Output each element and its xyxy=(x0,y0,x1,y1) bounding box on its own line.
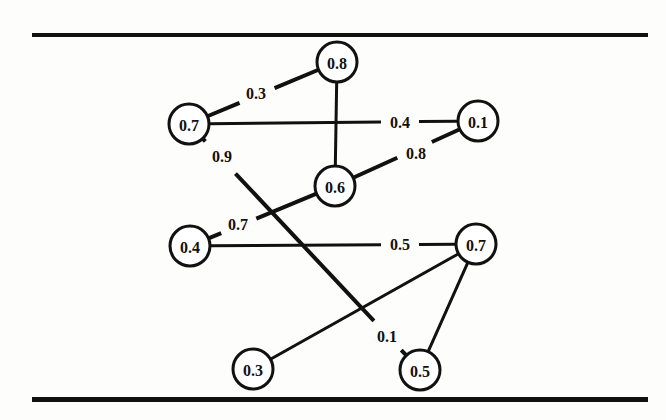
graph-node[interactable]: 0.6 xyxy=(315,166,355,206)
edge-weight-label: 0.7 xyxy=(228,216,248,233)
figure-root: 0.30.40.80.90.10.70.5 0.80.70.10.60.40.7… xyxy=(0,0,666,420)
node-value-label: 0.4 xyxy=(180,239,200,256)
e_04_07b-segment-0 xyxy=(210,245,381,246)
graph-canvas: 0.30.40.80.90.10.70.5 0.80.70.10.60.40.7… xyxy=(0,0,666,420)
node-value-label: 0.7 xyxy=(179,117,199,134)
edge-weight-label: 0.3 xyxy=(246,85,266,102)
graph-node[interactable]: 0.1 xyxy=(458,101,498,141)
bottom-horizontal-rule xyxy=(32,397,648,402)
e_06_01-segment-last xyxy=(432,129,460,142)
node-value-label: 0.5 xyxy=(410,363,430,380)
e_07a_08-segment-0 xyxy=(207,103,239,116)
edge-weight-label: 0.8 xyxy=(406,145,426,162)
node-value-label: 0.7 xyxy=(466,237,486,254)
edge-weight-label: 0.1 xyxy=(377,328,397,345)
e_06_04-segment-last xyxy=(208,233,221,238)
e_06_01-segment-0 xyxy=(353,158,397,178)
node-value-label: 0.6 xyxy=(325,179,345,196)
graph-node[interactable]: 0.5 xyxy=(400,350,440,390)
node-value-label: 0.1 xyxy=(468,114,488,131)
graph-node[interactable]: 0.8 xyxy=(317,42,357,82)
edge-weight-label: 0.5 xyxy=(390,236,410,253)
edge-weight-label: 0.4 xyxy=(390,114,410,131)
e_05_07b-segment-last xyxy=(428,262,468,351)
graph-node[interactable]: 0.3 xyxy=(233,349,273,389)
edge-weight-label: 0.9 xyxy=(212,148,232,165)
node-value-label: 0.3 xyxy=(243,362,263,379)
graph-node[interactable]: 0.4 xyxy=(170,226,210,266)
e_08_06-segment-last xyxy=(335,82,336,166)
graph-node[interactable]: 0.7 xyxy=(456,224,496,264)
graph-node[interactable]: 0.7 xyxy=(169,104,209,144)
e_07a_08-segment-last xyxy=(275,70,319,88)
node-value-label: 0.8 xyxy=(327,55,347,72)
e_07a_01-segment-0 xyxy=(209,122,381,124)
nodes-layer: 0.80.70.10.60.40.70.30.5 xyxy=(169,42,498,390)
edges-layer xyxy=(203,70,468,359)
